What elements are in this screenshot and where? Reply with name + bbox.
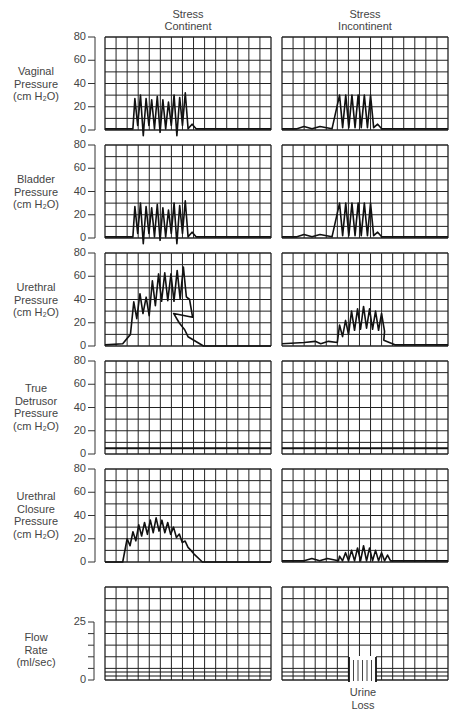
panel-grid-r1-c0 xyxy=(105,145,271,238)
trace-continent xyxy=(105,518,271,562)
y-axis-row-5 xyxy=(88,622,94,680)
panel-grid-r4-c1 xyxy=(282,469,448,562)
panel-grid-r5-c0 xyxy=(105,587,271,680)
y-axis-row-4 xyxy=(88,469,95,562)
panel-grid-r1-c1 xyxy=(282,145,448,238)
trace-continent xyxy=(105,93,271,136)
panel-grid-r0-c1 xyxy=(282,37,448,130)
y-axis-row-0 xyxy=(88,37,95,130)
panel-grid-r3-c1 xyxy=(282,361,448,454)
y-axis-row-1 xyxy=(88,145,95,238)
trace-incontinent xyxy=(282,203,448,237)
panel-grid-r2-c1 xyxy=(282,253,448,346)
y-axis-row-3 xyxy=(88,361,95,454)
chart-canvas xyxy=(0,0,461,719)
panel-grid-r3-c0 xyxy=(105,361,271,454)
trace-incontinent xyxy=(282,306,448,344)
trace-continent xyxy=(105,201,271,244)
y-axis-row-2 xyxy=(88,253,95,346)
trace-incontinent xyxy=(282,95,448,129)
panel-grid-r0-c0 xyxy=(105,37,271,130)
trace-incontinent xyxy=(282,546,448,561)
